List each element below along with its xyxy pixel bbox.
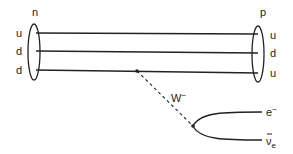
neutron-label: n [32, 6, 38, 18]
neutron-quark-3: d [16, 64, 22, 76]
beta-decay-diagram: n u d d p u d u W− e− νe [0, 0, 293, 154]
quark-line-top [36, 33, 258, 34]
proton-quark-2: d [270, 47, 276, 59]
diagram-svg: n u d d p u d u W− e− νe [0, 0, 293, 154]
w-boson-label: W− [171, 91, 186, 104]
neutron-quark-1: u [16, 27, 22, 39]
quark-line-middle [36, 51, 258, 53]
vertex-quark [135, 69, 139, 73]
antineutrino-label: νe [266, 135, 277, 150]
electron-label: e− [266, 105, 277, 118]
neutron-ellipse [28, 24, 40, 80]
quark-line-bottom [36, 70, 258, 73]
proton-quark-3: u [270, 67, 276, 79]
antineutrino-line [193, 126, 262, 140]
proton-ellipse [252, 26, 264, 82]
electron-line [193, 112, 262, 126]
proton-quark-1: u [270, 29, 276, 41]
proton-label: p [260, 6, 266, 18]
neutron-quark-2: d [16, 45, 22, 57]
